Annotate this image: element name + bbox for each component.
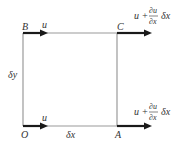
velocity-label-o: u [42, 112, 47, 123]
velocity-label-c: u + ∂u ∂x δx [134, 6, 171, 26]
velocity-label-a: u + ∂u ∂x δx [134, 102, 171, 122]
velocity-label-b: u [42, 19, 47, 30]
corner-label-b: B [22, 21, 28, 32]
dimension-label-dx: δx [66, 129, 76, 140]
velocity-label-c-numerator: ∂u [149, 6, 157, 15]
corner-label-c: C [117, 21, 124, 32]
velocity-label-a-numerator: ∂u [149, 102, 157, 111]
velocity-label-c-base: u + [134, 10, 148, 21]
dimension-label-dy: δy [8, 69, 18, 80]
velocity-label-a-base: u + [134, 106, 148, 117]
velocity-label-c-tail: δx [161, 10, 171, 21]
velocity-label-c-denominator: ∂x [149, 17, 157, 26]
velocity-arrow-a [117, 123, 152, 130]
corner-label-a: A [114, 129, 122, 140]
corner-label-o: O [21, 129, 28, 140]
velocity-label-a-tail: δx [161, 106, 171, 117]
fluid-element-diagram: B C O A δy δx u u u + ∂u ∂x δx u + ∂u ∂x… [0, 0, 183, 157]
velocity-label-a-denominator: ∂x [149, 113, 157, 122]
